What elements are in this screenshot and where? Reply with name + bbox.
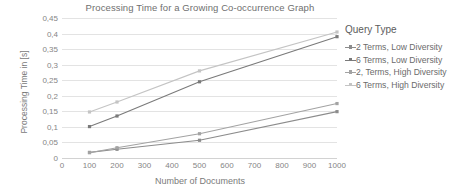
y-tick-label: 0,25 — [42, 76, 58, 85]
y-tick-label: 0,05 — [42, 138, 58, 147]
y-tick-label: 0,35 — [42, 45, 58, 54]
x-axis-title: Number of Documents — [60, 176, 340, 186]
x-tick-label: 0 — [60, 161, 64, 170]
legend-items: 2 Terms, Low Diversity6 Terms, Low Diver… — [345, 42, 456, 91]
data-point-marker — [88, 110, 91, 113]
y-tick-label: 0 — [54, 154, 58, 163]
x-tick-label: 400 — [165, 161, 178, 170]
y-tick-label: 0,4 — [47, 29, 58, 38]
gridline — [62, 158, 337, 159]
data-point-marker — [198, 69, 201, 72]
legend-title: Query Type — [345, 24, 456, 35]
data-point-marker — [115, 100, 118, 103]
data-point-marker — [198, 132, 201, 135]
y-tick-label: 0,1 — [47, 122, 58, 131]
legend-marker-icon — [345, 67, 356, 79]
data-point-marker — [115, 146, 118, 149]
x-tick-label: 600 — [220, 161, 233, 170]
legend-item[interactable]: 6 Terms, High Diversity — [345, 80, 456, 92]
series-line — [90, 37, 338, 127]
legend-item-label: 2 Terms, Low Diversity — [356, 42, 456, 54]
legend-marker-icon — [345, 55, 356, 67]
x-tick-label: 100 — [83, 161, 96, 170]
legend-item-label: 2, Terms, High Diversity — [356, 67, 456, 79]
series-lines — [62, 18, 337, 158]
data-point-marker — [198, 80, 201, 83]
x-tick-label: 700 — [248, 161, 261, 170]
y-axis-title: Processing Time in [s] — [19, 27, 29, 157]
data-point-marker — [88, 151, 91, 154]
legend-item-label: 6 Terms, High Diversity — [356, 80, 456, 92]
x-tick-label: 1000 — [328, 161, 346, 170]
legend-item[interactable]: 2, Terms, High Diversity — [345, 67, 456, 79]
data-point-marker — [335, 110, 338, 113]
y-tick-label: 0,3 — [47, 60, 58, 69]
legend-item[interactable]: 2 Terms, Low Diversity — [345, 42, 456, 54]
legend-item[interactable]: 6 Terms, Low Diversity — [345, 55, 456, 67]
y-tick-label: 0,2 — [47, 91, 58, 100]
chart-container: Processing Time for a Growing Co-occurre… — [0, 0, 456, 194]
series-line — [90, 104, 338, 153]
legend-item-label: 6 Terms, Low Diversity — [356, 55, 456, 67]
legend-marker-icon — [345, 80, 356, 92]
y-tick-label: 0,45 — [42, 14, 58, 23]
y-tick-label: 0,15 — [42, 107, 58, 116]
legend-marker-icon — [345, 42, 356, 54]
x-tick-label: 300 — [138, 161, 151, 170]
x-tick-label: 500 — [193, 161, 206, 170]
x-tick-label: 900 — [303, 161, 316, 170]
data-point-marker — [335, 102, 338, 105]
series-line — [90, 32, 338, 112]
legend: Query Type 2 Terms, Low Diversity6 Terms… — [345, 24, 456, 92]
plot-area: 00,050,10,150,20,250,30,350,40,45 010020… — [62, 18, 337, 158]
data-point-marker — [88, 125, 91, 128]
data-point-marker — [198, 139, 201, 142]
x-tick-label: 200 — [110, 161, 123, 170]
chart-title: Processing Time for a Growing Co-occurre… — [60, 2, 340, 13]
data-point-marker — [335, 35, 338, 38]
data-point-marker — [115, 114, 118, 117]
x-tick-label: 800 — [275, 161, 288, 170]
data-point-marker — [335, 30, 338, 33]
